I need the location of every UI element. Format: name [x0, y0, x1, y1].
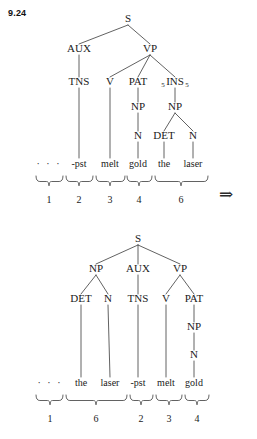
constituent-brace — [130, 395, 153, 405]
terminal-leader-line — [108, 305, 110, 377]
constituent-number: 1 — [48, 413, 53, 424]
tree-diagram-canvas: SAUXVPTNSVPATINS55NPNPNDETN-pstmeltgoldt… — [0, 0, 257, 439]
node-subscript-right: 5 — [185, 81, 189, 89]
tree-node-label: DET — [70, 292, 92, 304]
syntax-tree-figure: 9.24 ⇒ SAUXVPTNSVPATINS55NPNPNDETN-pstme… — [0, 0, 257, 439]
tree-node-label: N — [189, 129, 197, 141]
terminal-word: melt — [101, 158, 119, 169]
tree-node-label: N — [104, 292, 112, 304]
tree-node-label: S — [135, 232, 141, 244]
tree-node-label: S — [125, 12, 131, 24]
tree-bottom: SNPAUXVPDETNTNSVPATNPNthelaser-pstmeltgo… — [36, 232, 209, 424]
tree-node-label: TNS — [128, 292, 149, 304]
constituent-number: 2 — [139, 413, 144, 424]
tree-top: SAUXVPTNSVPATINS55NPNPNDETN-pstmeltgoldt… — [36, 12, 208, 205]
tree-node-label: NP — [187, 320, 201, 332]
terminal-word: laser — [101, 377, 121, 388]
ellipsis-terminal: · · · — [38, 377, 63, 388]
constituent-number: 4 — [195, 413, 200, 424]
constituent-number: 4 — [137, 194, 142, 205]
constituent-number: 3 — [167, 413, 172, 424]
tree-node-label: NP — [89, 262, 103, 274]
tree-node-label: N — [190, 348, 198, 360]
constituent-number: 6 — [94, 413, 99, 424]
tree-node-label: NP — [131, 100, 145, 112]
terminal-word: the — [158, 158, 171, 169]
tree-node-label: PAT — [129, 75, 148, 87]
constituent-brace — [185, 395, 209, 405]
terminal-word: -pst — [72, 158, 87, 169]
constituent-brace — [156, 395, 182, 405]
node-subscript-left: 5 — [161, 81, 165, 89]
tree-edge — [150, 55, 175, 77]
constituent-brace — [36, 395, 63, 405]
constituent-brace — [66, 395, 127, 405]
constituent-number: 2 — [77, 194, 82, 205]
tree-node-label: AUX — [67, 42, 91, 54]
tree-node-label: AUX — [126, 262, 150, 274]
constituent-number: 1 — [47, 194, 52, 205]
terminal-word: gold — [129, 158, 147, 169]
tree-node-label: NP — [168, 100, 182, 112]
constituent-number: 3 — [108, 194, 113, 205]
constituent-brace — [155, 176, 208, 186]
terminal-word: melt — [157, 377, 175, 388]
terminal-word: the — [75, 377, 88, 388]
tree-node-label: INS — [166, 75, 184, 87]
constituent-brace — [66, 176, 93, 186]
constituent-brace — [96, 176, 125, 186]
tree-node-label: N — [134, 129, 142, 141]
tree-node-label: VP — [143, 42, 157, 54]
terminal-word: gold — [185, 377, 203, 388]
tree-node-label: PAT — [185, 292, 204, 304]
terminal-word: laser — [184, 158, 204, 169]
ellipsis-terminal: · · · — [37, 158, 62, 169]
constituent-number: 6 — [179, 194, 184, 205]
constituent-brace — [36, 176, 63, 186]
tree-node-label: DET — [153, 129, 175, 141]
tree-node-label: TNS — [69, 75, 90, 87]
tree-node-label: V — [106, 75, 114, 87]
tree-node-label: V — [162, 292, 170, 304]
constituent-brace — [127, 176, 152, 186]
terminal-word: -pst — [131, 377, 146, 388]
tree-node-label: VP — [173, 262, 187, 274]
